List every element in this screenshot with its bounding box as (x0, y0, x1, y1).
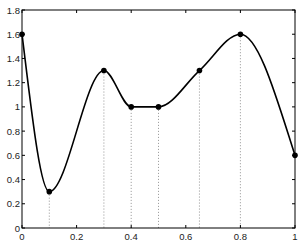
y-axis-ticks: 00.20.40.60.811.21.41.61.8 (7, 5, 295, 234)
data-point-marker (238, 31, 244, 37)
data-point-marker (128, 104, 134, 110)
y-tick-label: 0.6 (7, 150, 20, 161)
data-point-marker (47, 189, 53, 195)
x-axis-ticks: 00.20.40.60.81 (19, 10, 297, 242)
x-tick-label: 0.8 (234, 231, 247, 242)
y-tick-label: 1.8 (7, 5, 20, 16)
x-tick-label: 0.6 (179, 231, 192, 242)
data-point-marker (156, 104, 162, 110)
x-tick-label: 0.2 (70, 231, 83, 242)
data-point-marker (101, 68, 107, 74)
y-tick-label: 1.2 (7, 77, 20, 88)
x-tick-label: 0 (19, 231, 24, 242)
data-point-marker (197, 68, 203, 74)
y-tick-label: 0.8 (7, 126, 20, 137)
y-tick-label: 0.2 (7, 198, 20, 209)
x-tick-label: 0.4 (125, 231, 138, 242)
y-tick-label: 0 (15, 223, 20, 234)
x-tick-label: 1 (292, 231, 297, 242)
chart: 00.20.40.60.81 00.20.40.60.811.21.41.61.… (0, 0, 300, 249)
y-tick-label: 0.4 (7, 174, 20, 185)
y-tick-label: 1.4 (7, 53, 20, 64)
y-tick-label: 1 (15, 101, 20, 112)
y-tick-label: 1.6 (7, 29, 20, 40)
drop-lines (49, 34, 240, 228)
